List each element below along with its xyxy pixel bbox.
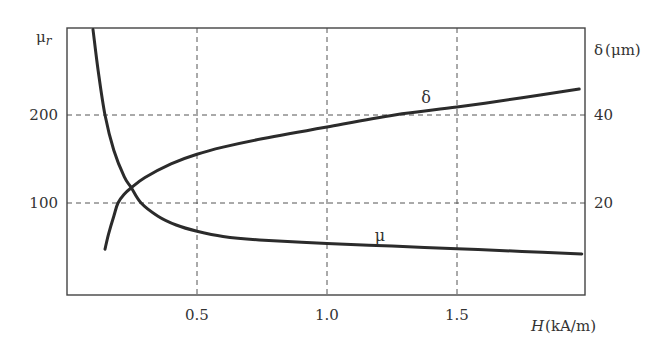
x-label-unit: (kA/m) [545, 317, 596, 335]
y-right-label-main: δ [594, 41, 603, 59]
curves: μδ [93, 30, 582, 254]
y-right-label-unit: (μm) [605, 41, 641, 59]
x-tick-label: 1.5 [445, 306, 469, 324]
series-curve-mu [93, 30, 582, 254]
y-right-axis-label: δ(μm) [594, 41, 641, 59]
tick-labels: 0.51.01.51002002040 [29, 106, 613, 324]
chart: μδ 0.51.01.51002002040 μr δ(μm) H(kA/m) [0, 0, 670, 338]
y-right-tick-label: 40 [594, 106, 613, 124]
y-left-label-main: μ [36, 28, 46, 46]
y-right-tick-label: 20 [594, 194, 613, 212]
curve-label-mu: μ [375, 226, 385, 245]
y-left-label-sub: r [46, 34, 53, 48]
x-axis-label: H(kA/m) [530, 317, 596, 335]
grid-lines [67, 28, 585, 295]
chart-canvas: μδ 0.51.01.51002002040 μr δ(μm) H(kA/m) [0, 0, 670, 338]
x-tick-label: 1.0 [315, 306, 339, 324]
plot-frame [67, 28, 585, 295]
y-left-axis-label: μr [36, 28, 53, 48]
x-tick-label: 0.5 [185, 306, 209, 324]
x-label-var: H [530, 317, 545, 335]
y-left-tick-label: 200 [29, 106, 58, 124]
curve-label-delta: δ [421, 88, 431, 107]
y-left-tick-label: 100 [29, 194, 58, 212]
